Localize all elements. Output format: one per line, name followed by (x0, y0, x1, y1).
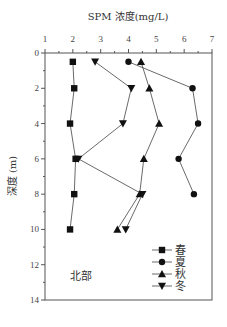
series-square (67, 59, 79, 233)
x-axis-title: SPM 浓度(mg/L) (88, 10, 169, 22)
x-tick-label: 4 (126, 34, 131, 44)
legend-label: 秋 (175, 267, 186, 281)
y-tick-label: 12 (30, 260, 39, 270)
spm-depth-profile-chart: SPM 浓度(mg/L) 123456702468101214 北部 春夏秋冬 … (0, 0, 227, 327)
series-triangle-down (74, 59, 146, 234)
x-tick-label: 7 (210, 34, 215, 44)
y-tick-label: 8 (35, 189, 40, 199)
region-label: 北部 (70, 269, 92, 283)
series-triangle-up (113, 58, 163, 233)
series-circle (125, 59, 201, 198)
x-tick-label: 6 (182, 34, 187, 44)
y-tick-label: 6 (35, 154, 40, 164)
plot-frame (45, 53, 212, 300)
series-group (67, 58, 201, 234)
y-tick-label: 10 (30, 224, 40, 234)
y-axis-title: 深度 (m) (6, 156, 18, 197)
x-tick-label: 2 (71, 34, 76, 44)
x-tick-label: 5 (154, 34, 159, 44)
y-tick-label: 0 (35, 48, 40, 58)
legend: 春夏秋冬 (152, 244, 186, 293)
y-tick-label: 4 (35, 119, 40, 129)
x-tick-label: 1 (43, 34, 48, 44)
x-tick-label: 3 (98, 34, 103, 44)
legend-label: 冬 (175, 279, 186, 293)
axes: 123456702468101214 (30, 34, 215, 305)
y-tick-label: 14 (30, 295, 40, 305)
legend-item: 冬 (152, 279, 186, 293)
y-tick-label: 2 (35, 83, 40, 93)
legend-item: 秋 (152, 267, 186, 281)
